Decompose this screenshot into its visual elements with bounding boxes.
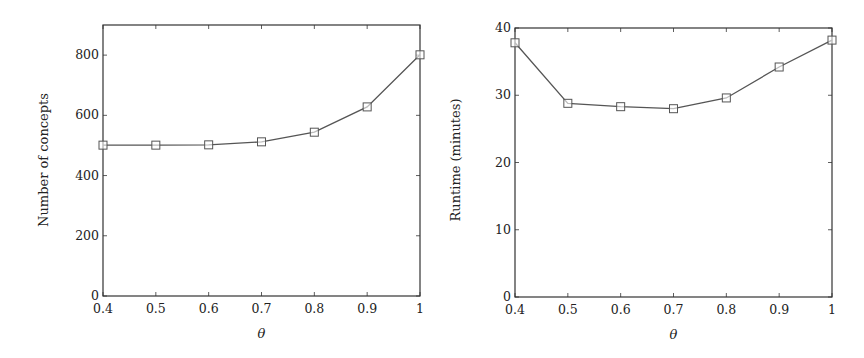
x-tick-label: 0.4 (93, 301, 113, 316)
square-marker-icon (152, 141, 160, 149)
y-tick-label: 400 (75, 168, 99, 183)
runtime-chart-svg: 0.40.50.60.70.80.91010203040θRuntime (mi… (432, 0, 864, 358)
plot-frame (103, 25, 420, 296)
x-tick-label: 0.7 (252, 301, 272, 316)
y-tick-label: 40 (495, 20, 511, 35)
x-axis-label: θ (670, 327, 678, 342)
y-tick-label: 10 (495, 222, 511, 237)
square-marker-icon (416, 51, 424, 59)
x-tick-label: 0.6 (199, 301, 219, 316)
concepts-chart: 0.40.50.60.70.80.910200400600800θNumber … (0, 0, 432, 358)
square-marker-icon (205, 141, 213, 149)
x-tick-label: 0.9 (769, 302, 789, 317)
square-marker-icon (258, 138, 266, 146)
square-marker-icon (775, 63, 783, 71)
x-tick-label: 0.8 (304, 301, 324, 316)
x-tick-label: 0.7 (664, 302, 684, 317)
y-tick-label: 20 (495, 155, 511, 170)
x-tick-label: 0.9 (357, 301, 377, 316)
y-tick-label: 30 (495, 87, 511, 102)
x-tick-label: 0.5 (146, 301, 166, 316)
square-marker-icon (99, 141, 107, 149)
square-marker-icon (564, 99, 572, 107)
y-axis-label: Runtime (minutes) (448, 98, 463, 221)
y-tick-label: 0 (91, 288, 99, 303)
x-tick-label: 0.8 (716, 302, 736, 317)
x-tick-label: 0.6 (611, 302, 631, 317)
x-tick-label: 0.5 (558, 302, 578, 317)
y-axis-label: Number of concepts (36, 93, 51, 227)
runtime-chart: 0.40.50.60.70.80.91010203040θRuntime (mi… (432, 0, 864, 358)
square-marker-icon (670, 105, 678, 113)
x-tick-label: 0.4 (505, 302, 525, 317)
y-tick-label: 0 (503, 289, 511, 304)
data-line (103, 55, 420, 145)
square-marker-icon (511, 39, 519, 47)
square-marker-icon (828, 36, 836, 44)
plot-frame (515, 28, 832, 297)
data-line (515, 40, 832, 109)
square-marker-icon (722, 94, 730, 102)
square-marker-icon (617, 103, 625, 111)
x-tick-label: 1 (416, 301, 424, 316)
y-tick-label: 800 (75, 47, 99, 62)
x-tick-label: 1 (828, 302, 836, 317)
concepts-chart-svg: 0.40.50.60.70.80.910200400600800θNumber … (0, 0, 432, 358)
square-marker-icon (310, 128, 318, 136)
y-tick-label: 200 (75, 228, 99, 243)
y-tick-label: 600 (75, 107, 99, 122)
x-axis-label: θ (258, 326, 266, 341)
square-marker-icon (363, 103, 371, 111)
